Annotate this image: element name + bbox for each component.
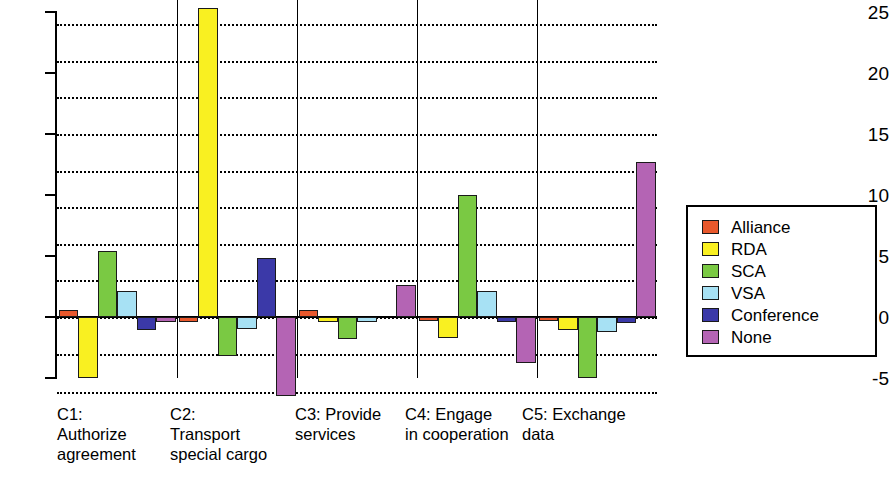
y-tick-label: -5 xyxy=(847,369,889,388)
legend-item: Alliance xyxy=(702,216,875,238)
legend-label: None xyxy=(731,329,772,346)
bar xyxy=(636,162,656,317)
bar xyxy=(257,258,277,317)
gridline xyxy=(57,392,657,394)
legend-label: SCA xyxy=(731,263,766,280)
bar xyxy=(179,317,199,322)
bar xyxy=(558,317,578,330)
y-tick xyxy=(45,316,57,318)
legend-item: Conference xyxy=(702,304,875,326)
legend: AllianceRDASCAVSAConferenceNone xyxy=(686,205,877,357)
group-separator xyxy=(417,0,418,378)
gridline xyxy=(57,280,657,282)
legend-item: None xyxy=(702,326,875,348)
bar xyxy=(597,317,617,332)
gridline xyxy=(57,134,657,136)
bar xyxy=(117,291,137,317)
y-tick xyxy=(45,133,57,135)
group-separator xyxy=(537,0,538,378)
y-tick xyxy=(45,11,57,13)
legend-swatch-icon xyxy=(702,220,719,234)
gridline xyxy=(57,97,657,99)
bar xyxy=(438,317,458,338)
bar xyxy=(357,317,377,322)
bar xyxy=(458,195,478,317)
x-axis-label: C1: Authorize agreement xyxy=(57,404,136,464)
y-tick xyxy=(45,377,57,379)
bar xyxy=(617,317,637,323)
bar xyxy=(299,310,319,317)
bar xyxy=(276,317,296,396)
bar xyxy=(396,285,416,317)
y-tick-label: 15 xyxy=(847,125,889,144)
y-tick-label: 10 xyxy=(847,186,889,205)
y-tick xyxy=(45,72,57,74)
bar xyxy=(59,310,79,317)
bar xyxy=(98,251,118,317)
legend-item: VSA xyxy=(702,282,875,304)
y-tick-label: 20 xyxy=(847,64,889,83)
bar xyxy=(218,317,238,356)
x-axis-label: C5: Exchange data xyxy=(522,404,626,444)
bar xyxy=(497,317,517,322)
bar xyxy=(137,317,157,330)
legend-swatch-icon xyxy=(702,264,719,278)
legend-label: Conference xyxy=(731,307,819,324)
bar xyxy=(237,317,257,329)
x-axis-label: C2: Transport special cargo xyxy=(170,404,267,464)
bar xyxy=(318,317,338,322)
legend-swatch-icon xyxy=(702,242,719,256)
legend-label: Alliance xyxy=(731,219,791,236)
y-tick xyxy=(45,194,57,196)
gridline xyxy=(57,354,657,356)
bar xyxy=(338,317,358,339)
gridline xyxy=(57,24,657,26)
legend-item: RDA xyxy=(702,238,875,260)
bar xyxy=(78,317,98,378)
legend-swatch-icon xyxy=(702,308,719,322)
bar xyxy=(156,317,176,322)
legend-label: RDA xyxy=(731,241,767,258)
gridline xyxy=(57,171,657,173)
bar xyxy=(539,317,559,321)
y-tick xyxy=(45,255,57,257)
x-axis-label: C4: Engage in cooperation xyxy=(405,404,509,444)
bar xyxy=(578,317,598,378)
bar-chart: -50510152025 C1: Authorize agreementC2: … xyxy=(0,0,889,477)
y-tick-label: 25 xyxy=(847,3,889,22)
bar xyxy=(198,8,218,317)
legend-label: VSA xyxy=(731,285,765,302)
group-separator xyxy=(297,0,298,378)
gridline xyxy=(57,61,657,63)
gridline xyxy=(57,244,657,246)
bar xyxy=(419,317,439,321)
x-axis-label: C3: Provide services xyxy=(295,404,381,444)
legend-swatch-icon xyxy=(702,286,719,300)
bar xyxy=(477,291,497,317)
gridline xyxy=(57,207,657,209)
legend-swatch-icon xyxy=(702,330,719,344)
plot-area xyxy=(57,12,657,378)
legend-item: SCA xyxy=(702,260,875,282)
bar xyxy=(516,317,536,363)
